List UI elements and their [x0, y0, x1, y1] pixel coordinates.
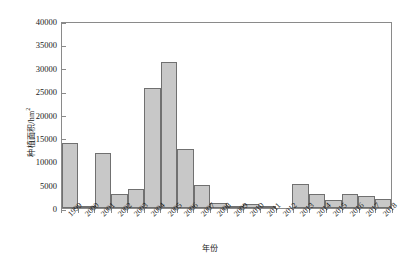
- bar: [161, 62, 177, 208]
- bar-slot: [325, 23, 341, 208]
- y-axis-tick-label: 30000: [36, 64, 57, 74]
- y-axis-tick-label: 15000: [36, 134, 57, 144]
- bar-chart: 种植面积/hm2 0500010000150002000025000300003…: [0, 0, 419, 264]
- y-axis-tick-label: 0: [53, 204, 57, 214]
- bar-series: [62, 23, 391, 208]
- bar-slot: [128, 23, 144, 208]
- bar-slot: [375, 23, 391, 208]
- bar-slot: [227, 23, 243, 208]
- y-axis-label: 种植面积/hm2: [25, 72, 36, 192]
- bar-slot: [194, 23, 210, 208]
- bar: [177, 149, 193, 208]
- y-axis-tick-label: 25000: [36, 87, 57, 97]
- bar-slot: [309, 23, 325, 208]
- y-axis-label-superscript: 2: [25, 107, 31, 110]
- bar-slot: [144, 23, 160, 208]
- x-axis-label: 年份: [0, 242, 419, 253]
- y-axis-tick-label: 20000: [36, 111, 57, 121]
- y-axis-tick-label: 10000: [36, 157, 57, 167]
- bar-slot: [78, 23, 94, 208]
- bar-slot: [292, 23, 308, 208]
- bar-slot: [177, 23, 193, 208]
- y-axis-label-text: 种植面积/hm: [27, 111, 36, 157]
- bar-slot: [95, 23, 111, 208]
- bar-slot: [161, 23, 177, 208]
- y-axis-tick-label: 35000: [36, 40, 57, 50]
- bar-slot: [276, 23, 292, 208]
- y-axis-tick-label: 40000: [36, 17, 57, 27]
- x-axis-tick-mark: [61, 209, 62, 213]
- bar-slot: [243, 23, 259, 208]
- bar-slot: [111, 23, 127, 208]
- bar-slot: [62, 23, 78, 208]
- bar-slot: [210, 23, 226, 208]
- bar: [144, 88, 160, 208]
- plot-area: 0500010000150002000025000300003500040000: [61, 22, 392, 209]
- bar-slot: [342, 23, 358, 208]
- bar-slot: [259, 23, 275, 208]
- bar-slot: [358, 23, 374, 208]
- y-axis-tick-label: 5000: [40, 181, 57, 191]
- bar: [62, 143, 78, 208]
- bar: [95, 153, 111, 208]
